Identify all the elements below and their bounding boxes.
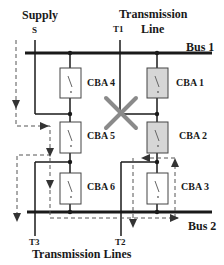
transmission-line-label-2: Line xyxy=(141,22,165,36)
breaker-cba6[interactable]: CBA 6 xyxy=(60,173,115,204)
arrow-down-icon xyxy=(12,100,20,109)
cba3-label: CBA 3 xyxy=(181,181,209,192)
cba5-label: CBA 5 xyxy=(87,130,115,141)
arrow-left-icon xyxy=(141,154,150,162)
arrow-up-icon xyxy=(171,158,179,167)
arrow-down-icon xyxy=(46,180,54,189)
cba4-label: CBA 4 xyxy=(87,77,115,88)
flow-arrowheads xyxy=(12,100,179,228)
bus2-label: Bus 2 xyxy=(188,219,216,233)
cba6-label: CBA 6 xyxy=(87,181,115,192)
cba1-label: CBA 1 xyxy=(176,77,204,88)
transmission-line-label-1: Transmission xyxy=(119,7,188,21)
breaker-cba4[interactable]: CBA 4 xyxy=(60,68,115,98)
supply-label: Supply xyxy=(22,8,58,22)
supply-node-label: S xyxy=(32,25,37,35)
fault-x-icon xyxy=(106,98,136,128)
breaker-cba1[interactable]: CBA 1 xyxy=(147,68,204,98)
cba2-label: CBA 2 xyxy=(179,130,207,141)
arrow-down-icon xyxy=(13,213,21,222)
arrow-right-icon xyxy=(40,122,49,130)
t2-label: T2 xyxy=(115,237,126,247)
arrow-down-icon xyxy=(129,219,137,228)
t3-label: T3 xyxy=(29,237,40,247)
transmission-lines-label: Transmission Lines xyxy=(32,247,132,261)
arrow-down-icon xyxy=(46,148,54,157)
breaker-and-a-half-diagram: Supply S Transmission Line T1 Bus 1 Bus … xyxy=(0,0,224,265)
breaker-cba2[interactable]: CBA 2 xyxy=(147,122,207,153)
t1-label: T1 xyxy=(113,24,124,34)
breaker-cba3[interactable]: CBA 3 xyxy=(147,173,209,204)
